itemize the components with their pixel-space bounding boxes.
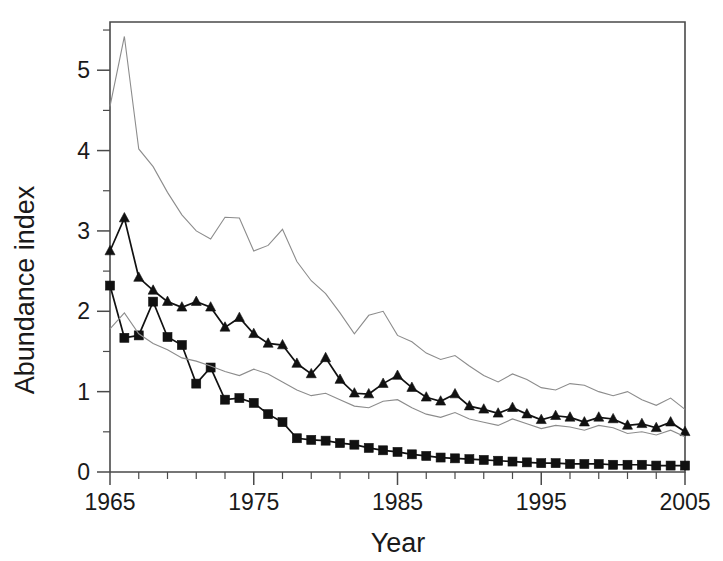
data-point-marker-triangle — [163, 296, 173, 305]
data-point-marker-triangle — [421, 392, 431, 401]
data-point-marker-square — [465, 455, 474, 464]
y-axis-title-label: Abundance index — [10, 185, 40, 394]
x-tick-label: 1995 — [516, 489, 567, 515]
data-point-marker-square — [609, 460, 618, 469]
x-tick-label: 1985 — [372, 489, 423, 515]
data-point-marker-square — [221, 395, 230, 404]
data-point-marker-square — [479, 455, 488, 464]
series-upper-confidence-limit — [110, 36, 685, 409]
data-point-marker-square — [364, 443, 373, 452]
data-point-marker-triangle — [637, 418, 647, 427]
data-point-marker-triangle — [508, 402, 518, 411]
x-axis-title: Year — [371, 528, 426, 558]
data-point-marker-square — [666, 461, 675, 470]
x-tick-label: 2005 — [659, 489, 710, 515]
data-point-marker-square — [422, 451, 431, 460]
data-point-marker-square — [508, 457, 517, 466]
y-axis-tick-labels: 012345 — [77, 57, 90, 485]
data-point-marker-square — [566, 459, 575, 468]
data-point-marker-triangle — [134, 272, 144, 281]
data-point-marker-square — [120, 333, 129, 342]
data-point-marker-triangle — [450, 388, 460, 397]
series-line-upper-confidence-limit — [110, 36, 685, 409]
abundance-index-chart: Abundance index Year 012345 196519751985… — [0, 0, 723, 561]
data-point-marker-triangle — [666, 417, 676, 426]
data-point-marker-square — [106, 281, 115, 290]
data-point-marker-square — [652, 461, 661, 470]
data-point-marker-square — [537, 459, 546, 468]
y-tick-label: 0 — [77, 459, 90, 485]
data-point-marker-square — [393, 447, 402, 456]
data-point-marker-triangle — [378, 378, 388, 387]
data-point-marker-triangle — [551, 410, 561, 419]
data-point-marker-square — [522, 458, 531, 467]
data-point-marker-square — [278, 418, 287, 427]
data-point-marker-square — [192, 379, 201, 388]
data-point-marker-triangle — [105, 245, 115, 254]
data-point-marker-square — [407, 450, 416, 459]
axis-frame — [110, 22, 685, 472]
x-axis-tick-labels: 19651975198519952005 — [84, 489, 710, 515]
data-point-marker-square — [350, 440, 359, 449]
data-point-marker-triangle — [234, 312, 244, 321]
data-point-marker-square — [249, 398, 258, 407]
data-point-marker-square — [235, 394, 244, 403]
data-point-marker-square — [551, 459, 560, 468]
data-point-marker-square — [264, 410, 273, 419]
data-point-marker-square — [494, 456, 503, 465]
data-point-marker-triangle — [594, 412, 604, 421]
y-tick-label: 3 — [77, 218, 90, 244]
data-point-marker-triangle — [191, 296, 201, 305]
data-point-marker-square — [594, 459, 603, 468]
data-series-layer — [105, 36, 690, 470]
data-point-marker-square — [307, 435, 316, 444]
y-tick-label: 1 — [77, 379, 90, 405]
data-point-marker-triangle — [119, 212, 129, 221]
data-point-marker-square — [451, 454, 460, 463]
data-point-marker-square — [163, 333, 172, 342]
data-point-marker-triangle — [464, 401, 474, 410]
x-axis-title-label: Year — [371, 528, 426, 558]
data-point-marker-square — [623, 460, 632, 469]
y-tick-label: 5 — [77, 57, 90, 83]
chart-figure: Abundance index Year 012345 196519751985… — [0, 0, 723, 561]
data-point-marker-square — [580, 459, 589, 468]
y-tick-label: 4 — [77, 138, 90, 164]
data-point-marker-triangle — [393, 370, 403, 379]
data-point-marker-square — [436, 453, 445, 462]
data-point-marker-square — [292, 434, 301, 443]
data-point-marker-triangle — [680, 426, 690, 435]
data-point-marker-square — [177, 341, 186, 350]
data-point-marker-square — [336, 439, 345, 448]
data-point-marker-triangle — [263, 338, 273, 347]
series-abundance-index-triangles — [105, 212, 690, 435]
data-point-marker-triangle — [407, 382, 417, 391]
x-tick-label: 1975 — [228, 489, 279, 515]
data-point-marker-square — [149, 297, 158, 306]
data-point-marker-square — [321, 436, 330, 445]
x-tick-label: 1965 — [84, 489, 135, 515]
y-axis-title: Abundance index — [10, 185, 40, 394]
x-axis-ticks — [110, 472, 685, 485]
data-point-marker-triangle — [321, 352, 331, 361]
data-point-marker-square — [637, 460, 646, 469]
y-tick-label: 2 — [77, 298, 90, 324]
data-point-marker-square — [681, 461, 690, 470]
data-point-marker-square — [379, 446, 388, 455]
